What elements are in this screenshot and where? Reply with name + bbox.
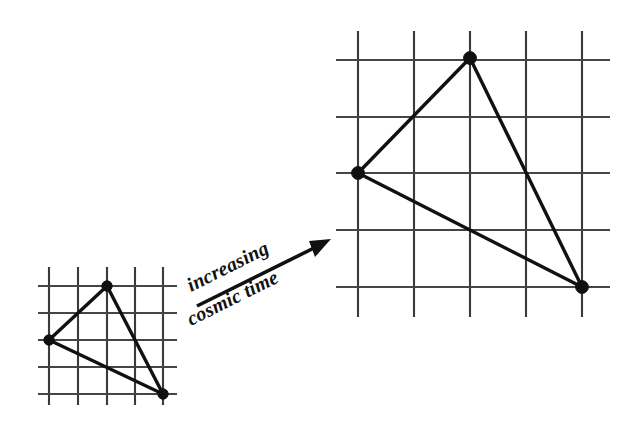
galaxy-vertex-b (464, 52, 477, 65)
cosmic-expansion-figure: increasing cosmic time (0, 0, 639, 436)
time-arrow-head (309, 239, 331, 257)
galaxy-vertex-b (102, 281, 112, 291)
galaxy-vertex-c (158, 389, 168, 399)
galaxy-vertex-c (576, 281, 589, 294)
early-time-panel (38, 267, 177, 405)
figure-canvas: increasing cosmic time (0, 0, 639, 436)
late-time-grid (336, 31, 610, 317)
time-arrow-annotation: increasing cosmic time (183, 236, 331, 329)
late-time-panel (336, 31, 610, 317)
galaxy-vertex-a (352, 167, 365, 180)
galaxy-vertex-a (44, 335, 54, 345)
